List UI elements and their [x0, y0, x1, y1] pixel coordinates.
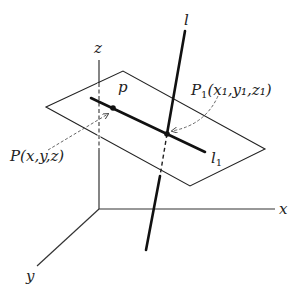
- point-P1: [164, 131, 170, 137]
- line-plane-intersection-diagram: z x y p l l1 P(x,y,z) P1(x₁,y₁,z₁): [0, 0, 297, 290]
- point-P: [110, 105, 116, 111]
- point-P1-label: P1(x₁,y₁,z₁): [190, 81, 272, 100]
- plane-label: p: [118, 78, 128, 96]
- z-axis-label: z: [93, 39, 102, 57]
- y-axis-label: y: [25, 267, 35, 285]
- line-l1-label: l1: [211, 149, 222, 168]
- point-P-label: P(x,y,z): [9, 147, 64, 165]
- line-l-label: l: [184, 11, 189, 29]
- line-l-hidden: [160, 134, 167, 176]
- x-axis-label: x: [279, 200, 288, 218]
- y-axis: [37, 209, 99, 266]
- line-l-upper: [167, 31, 185, 134]
- line-l-lower: [146, 176, 160, 250]
